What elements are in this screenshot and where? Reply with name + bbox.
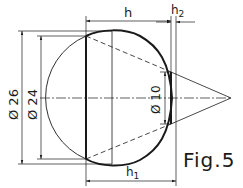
hidden-line-top xyxy=(86,36,171,72)
sphere-arc-left xyxy=(46,36,86,159)
dim-label-h: h xyxy=(124,5,132,20)
figure-caption: Fig.5 xyxy=(183,148,235,172)
technical-drawing: h h2 h1 Ø 26 Ø 24 Ø 10 Fig.5 xyxy=(0,0,243,188)
dim-label-h1: h1 xyxy=(126,165,139,181)
cone-edge-bottom xyxy=(171,98,231,124)
dim-label-dia-26: Ø 26 xyxy=(6,89,21,120)
dim-label-dia-24: Ø 24 xyxy=(25,89,40,120)
dim-label-h2: h2 xyxy=(171,3,184,19)
cone-edge-top xyxy=(171,72,231,98)
dim-label-dia-10: Ø 10 xyxy=(149,85,163,114)
hidden-line-bottom xyxy=(86,124,171,159)
